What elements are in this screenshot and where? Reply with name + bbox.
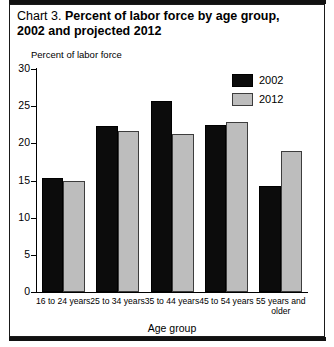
bar-2012-5 [281, 151, 303, 292]
bottom-rule [9, 337, 326, 341]
legend-item-2012: 2012 [232, 91, 306, 107]
y-axis-label: Percent of labor force [31, 49, 122, 60]
bar-2002-4 [205, 125, 227, 292]
chart-figure: Chart 3. Percent of labor force by age g… [0, 0, 334, 347]
chart-title-main-1: Percent of labor force by age group, [65, 9, 280, 23]
x-tick-label: 45 to 54 years [195, 296, 257, 306]
bar-2002-2 [96, 126, 118, 292]
y-tick-mark [31, 255, 37, 256]
bar-2012-2 [118, 131, 140, 292]
bar-2012-1 [63, 181, 85, 293]
y-tick-label: 15 [0, 174, 30, 186]
y-tick-label: 10 [0, 211, 30, 223]
bar-2012-3 [172, 134, 194, 292]
bar-2002-5 [259, 186, 281, 292]
y-tick-mark [31, 69, 37, 70]
x-axis-label: Age group [36, 322, 308, 334]
legend-item-2002: 2002 [232, 72, 306, 88]
chart-title-main-2: 2002 and projected 2012 [17, 24, 317, 39]
y-tick-label: 20 [0, 136, 30, 148]
chart-title-line-1: Chart 3. Percent of labor force by age g… [17, 9, 317, 24]
legend-label-2002: 2002 [259, 74, 283, 86]
chart-title: Chart 3. Percent of labor force by age g… [17, 9, 317, 39]
chart-title-prefix: Chart 3. [17, 9, 61, 23]
y-tick-mark [31, 218, 37, 219]
chart-legend: 2002 2012 [232, 72, 306, 110]
y-tick-label: 0 [0, 285, 30, 297]
y-tick-label: 5 [0, 248, 30, 260]
bar-2002-1 [42, 178, 64, 292]
x-tick-label: 35 to 44 years [141, 296, 203, 306]
y-tick-mark [31, 181, 37, 182]
y-tick-mark [31, 106, 37, 107]
bar-2012-4 [226, 122, 248, 292]
legend-swatch-icon-2012 [232, 93, 253, 106]
y-tick-label: 25 [0, 99, 30, 111]
x-axis-spine [36, 292, 308, 293]
legend-swatch-icon-2002 [232, 74, 253, 87]
y-tick-mark [31, 143, 37, 144]
y-tick-label: 30 [0, 62, 30, 74]
x-tick-label: 55 years and older [250, 296, 312, 316]
x-tick-label: 16 to 24 years [32, 296, 94, 306]
legend-label-2012: 2012 [259, 93, 283, 105]
y-tick-mark [31, 292, 37, 293]
bar-2002-3 [151, 101, 173, 292]
x-tick-label: 25 to 34 years [86, 296, 148, 306]
